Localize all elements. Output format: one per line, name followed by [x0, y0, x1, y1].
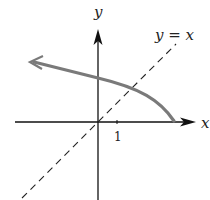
line-label: y = x — [154, 26, 195, 44]
line-y-equals-x — [22, 44, 176, 198]
graph: y x y = x 1 — [0, 0, 210, 200]
curve — [34, 62, 174, 121]
y-axis-label: y — [93, 3, 103, 21]
tick-label-1: 1 — [114, 130, 122, 144]
x-axis-label: x — [201, 114, 210, 132]
